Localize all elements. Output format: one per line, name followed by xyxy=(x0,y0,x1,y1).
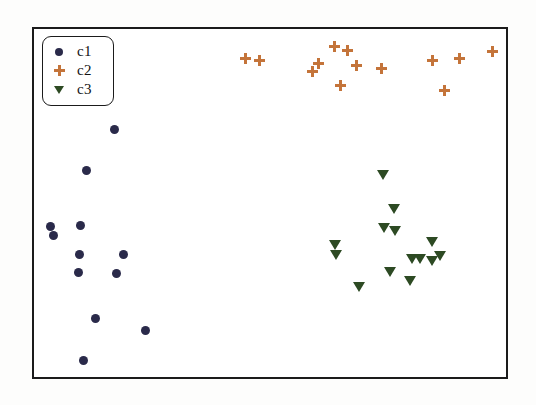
data-point-c3 xyxy=(329,240,341,250)
data-point-c1 xyxy=(79,356,88,365)
legend-circle-icon xyxy=(50,45,68,59)
data-point-c3 xyxy=(426,237,438,247)
data-point-c3 xyxy=(388,204,400,214)
legend-label-c1: c1 xyxy=(77,44,92,59)
data-point-c1 xyxy=(75,250,84,259)
data-point-c3 xyxy=(353,282,365,292)
data-point-c2 xyxy=(376,63,387,74)
data-point-c1 xyxy=(119,250,128,259)
data-point-c1 xyxy=(74,268,83,277)
chart-legend: c1 c2 c3 xyxy=(42,36,114,106)
data-point-c2 xyxy=(307,66,318,77)
legend-label-c2: c2 xyxy=(77,63,92,78)
data-point-c3 xyxy=(377,170,389,180)
legend-triangle-down-icon xyxy=(50,83,68,97)
data-point-c3 xyxy=(330,250,342,260)
data-point-c1 xyxy=(49,231,58,240)
data-point-c2 xyxy=(427,55,438,66)
data-point-c1 xyxy=(82,166,91,175)
data-point-c1 xyxy=(46,222,55,231)
data-point-c3 xyxy=(389,226,401,236)
legend-entry-c2[interactable]: c2 xyxy=(50,61,107,80)
legend-plus-icon xyxy=(50,64,68,78)
data-point-c2 xyxy=(487,46,498,57)
data-point-c1 xyxy=(112,269,121,278)
legend-label-c3: c3 xyxy=(77,82,92,97)
data-point-c2 xyxy=(342,45,353,56)
data-point-c3 xyxy=(384,267,396,277)
legend-entry-c3[interactable]: c3 xyxy=(50,80,107,99)
data-point-c2 xyxy=(254,55,265,66)
data-point-c2 xyxy=(439,85,450,96)
data-point-c2 xyxy=(240,53,251,64)
data-point-c3 xyxy=(414,254,426,264)
scatter-plot: c1 c2 c3 xyxy=(0,0,536,405)
data-point-c2 xyxy=(329,41,340,52)
data-point-c3 xyxy=(404,276,416,286)
legend-entry-c1[interactable]: c1 xyxy=(50,42,107,61)
data-point-c2 xyxy=(335,80,346,91)
data-point-c2 xyxy=(454,53,465,64)
data-point-c1 xyxy=(110,125,119,134)
data-point-c2 xyxy=(351,60,362,71)
data-point-c1 xyxy=(76,221,85,230)
data-point-c1 xyxy=(141,326,150,335)
data-point-c3 xyxy=(434,251,446,261)
data-point-c1 xyxy=(91,314,100,323)
